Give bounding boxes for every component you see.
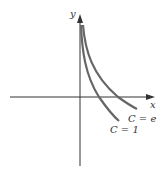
chart: y x C = e C = 1 [0,0,165,170]
curve-c-e [83,25,137,109]
curve-label-c-1: C = 1 [110,124,139,135]
curve-label-c-e: C = e [128,113,156,124]
y-axis-arrow-icon [77,14,83,23]
x-axis-label: x [150,99,156,110]
y-axis-label: y [69,8,76,19]
curve-c-1 [81,25,119,121]
